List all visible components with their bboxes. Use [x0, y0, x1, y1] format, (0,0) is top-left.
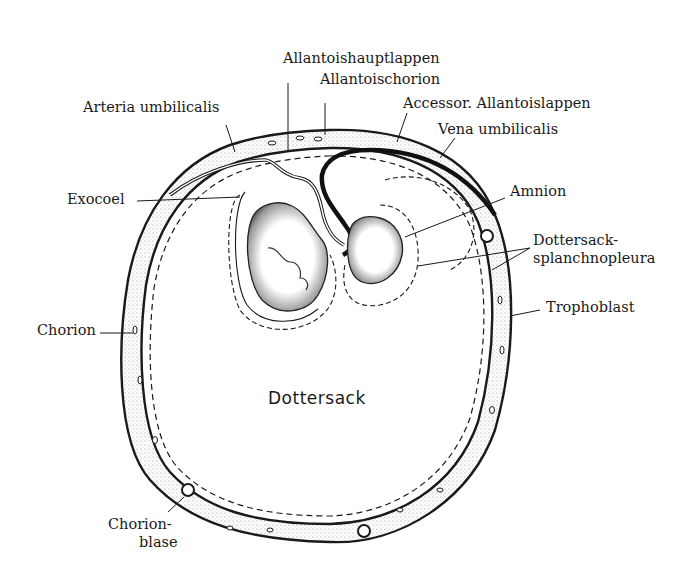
- embryo-body-right: [348, 217, 403, 284]
- label-dottersack-splanchnopleura-line2: splanchnopleura: [533, 250, 655, 267]
- embryo-body-left: [247, 203, 327, 311]
- label-chorionblase-line2: blase: [139, 534, 178, 551]
- label-amnion: Amnion: [510, 183, 566, 200]
- label-dottersack-splanchnopleura-line1: Dottersack-: [533, 232, 618, 249]
- label-vena-umbilicalis: Vena umbilicalis: [438, 121, 558, 138]
- label-dottersack: Dottersack: [268, 390, 366, 407]
- label-accessor-allantoislappen: Accessor. Allantoislappen: [403, 95, 591, 112]
- label-arteria-umbilicalis: Arteria umbilicalis: [83, 99, 219, 116]
- label-exocoel: Exocoel: [67, 191, 125, 208]
- label-chorion: Chorion: [37, 322, 96, 339]
- label-allantoishauptlappen: Allantoishauptlappen: [283, 50, 440, 67]
- label-allantoischorion: Allantoischorion: [320, 71, 440, 88]
- diagram-stage: Allantoishauptlappen Allantoischorion Ac…: [0, 0, 691, 573]
- label-trophoblast: Trophoblast: [546, 299, 635, 316]
- label-chorionblase-line1: Chorion-: [108, 516, 172, 533]
